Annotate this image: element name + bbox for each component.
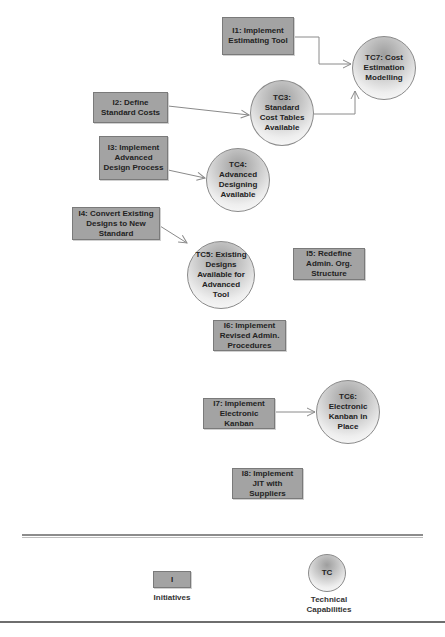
initiative-i4: I4: Convert Existing Designs to New Stan… xyxy=(72,207,160,240)
legend-separator-inner xyxy=(22,537,423,538)
legend-capability-symbol: TC xyxy=(308,554,346,592)
capability-tc5: TC5: Existing Designs Available for Adva… xyxy=(187,241,255,309)
initiative-i4-label: I4: Convert Existing Designs to New Stan… xyxy=(76,209,156,239)
initiative-i3: I3: Implement Advanced Design Process xyxy=(99,136,168,180)
capability-tc7-label: TC7: Cost Estimation Modelling xyxy=(358,53,410,83)
legend-capability-label: Technical Capabilities xyxy=(297,595,361,615)
edge-i2-tc3 xyxy=(168,106,249,115)
initiative-i1-label: I1: Implement Estimating Tool xyxy=(226,26,290,46)
initiative-i6: I6: Implement Revised Admin. Procedures xyxy=(213,320,286,351)
diagram-canvas: I1: Implement Estimating Tool I2: Define… xyxy=(0,0,445,637)
capability-tc7: TC7: Cost Estimation Modelling xyxy=(352,36,416,100)
capability-tc3: TC3: Standard Cost Tables Available xyxy=(250,80,314,146)
edge-tc3-tc7 xyxy=(314,91,355,114)
legend-initiative-label: Initiatives xyxy=(140,593,204,603)
edge-i4-tc5 xyxy=(160,226,187,243)
initiative-i7-label: I7: Implement Electronic Kanban xyxy=(207,399,271,429)
initiative-i3-label: I3: Implement Advanced Design Process xyxy=(103,143,164,173)
initiative-i8-label: I8: Implement JIT with Suppliers xyxy=(236,469,299,499)
edge-i1-tc7 xyxy=(294,37,351,64)
legend-initiative-symbol: I xyxy=(153,571,191,588)
initiative-i1: I1: Implement Estimating Tool xyxy=(222,17,294,55)
initiative-i2-label: I2: Define Standard Costs xyxy=(97,98,164,118)
edge-i3-tc4 xyxy=(168,170,205,178)
capability-tc4: TC4: Advanced Designing Available xyxy=(206,148,270,212)
capability-tc5-label: TC5: Existing Designs Available for Adva… xyxy=(193,250,249,300)
initiative-i5: I5: Redefine Admin. Org. Structure xyxy=(293,248,365,280)
initiative-i2: I2: Define Standard Costs xyxy=(93,92,168,123)
initiative-i8: I8: Implement JIT with Suppliers xyxy=(232,468,303,499)
capability-tc6-label: TC6: Electronic Kanban in Place xyxy=(322,392,374,432)
capability-tc4-label: TC4: Advanced Designing Available xyxy=(212,160,264,200)
legend-separator xyxy=(22,534,423,536)
capability-tc6: TC6: Electronic Kanban in Place xyxy=(316,380,380,444)
initiative-i5-label: I5: Redefine Admin. Org. Structure xyxy=(297,249,361,279)
bottom-rule xyxy=(0,621,445,623)
initiative-i7: I7: Implement Electronic Kanban xyxy=(203,398,275,429)
initiative-i6-label: I6: Implement Revised Admin. Procedures xyxy=(217,321,282,351)
capability-tc3-label: TC3: Standard Cost Tables Available xyxy=(256,93,308,133)
